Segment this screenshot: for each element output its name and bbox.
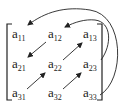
arrow-a32-to-a23 — [63, 73, 81, 89]
entry-a32: a32 — [48, 85, 62, 102]
entry-a11: a11 — [12, 26, 25, 43]
matrix-diagram: a11 a12 a13 a21 a22 a23 a31 a32 a33 — [0, 0, 122, 109]
right-bracket — [97, 24, 102, 100]
arrow-a33-to-a11 — [28, 9, 118, 95]
entry-a13: a13 — [83, 26, 97, 43]
entry-a21: a21 — [12, 56, 26, 73]
entry-a31: a31 — [12, 85, 26, 102]
arrow-a22-to-a13 — [63, 43, 82, 60]
arrow-a31-to-a22 — [27, 73, 45, 89]
entry-a22: a22 — [48, 56, 62, 73]
entry-a23: a23 — [83, 56, 97, 73]
arrow-a12-to-a21 — [28, 42, 46, 57]
entry-a33: a33 — [83, 85, 97, 102]
entry-a12: a12 — [48, 26, 62, 43]
